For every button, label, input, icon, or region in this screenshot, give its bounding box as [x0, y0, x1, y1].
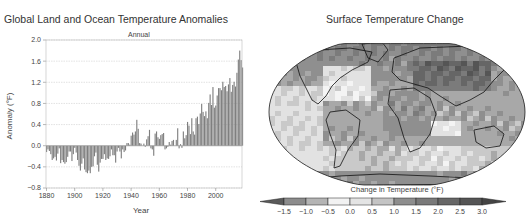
x-tick-label: 1960: [152, 192, 168, 199]
x-tick-label: 1880: [39, 192, 55, 199]
bar: [149, 130, 150, 146]
colorbar-tick-label: 1.0: [389, 208, 399, 215]
bar: [208, 103, 209, 146]
colorbar-tick-label: −1.5: [277, 208, 291, 215]
bar: [83, 146, 84, 159]
colorbar-segment: [416, 198, 438, 205]
bar: [184, 138, 185, 145]
bar: [63, 146, 64, 162]
bar: [241, 60, 242, 146]
bar: [60, 146, 61, 163]
continent-outline: [300, 174, 480, 186]
bar: [111, 146, 112, 150]
bar: [232, 85, 233, 146]
colorbar: −1.5−1.0−0.50.00.51.01.52.02.53.0: [260, 198, 506, 215]
bar: [47, 146, 48, 150]
bar: [198, 124, 199, 146]
bar: [74, 146, 75, 148]
bar: [173, 140, 174, 146]
bar: [59, 146, 60, 149]
bar: [81, 146, 82, 164]
colorbar-segment: [438, 198, 460, 205]
continent-outline: [392, 46, 506, 106]
bar: [193, 131, 194, 145]
bar: [238, 60, 239, 146]
bar: [133, 135, 134, 146]
bar: [212, 87, 213, 146]
colorbar-segment: [284, 198, 306, 205]
y-tick-label: 1.6: [31, 58, 41, 65]
bar: [155, 134, 156, 146]
bar: [171, 141, 172, 146]
bar: [50, 146, 51, 154]
bar: [49, 146, 50, 151]
bar: [77, 146, 78, 160]
bar: [52, 146, 53, 160]
bar: [97, 146, 98, 165]
bar: [100, 146, 101, 163]
bar: [125, 146, 126, 151]
bar: [122, 146, 123, 150]
bar: [109, 146, 110, 157]
bar: [187, 122, 188, 146]
bar: [73, 146, 74, 154]
y-tick-label: 0.0: [31, 142, 41, 149]
bar: [164, 146, 165, 150]
x-tick-label: 1940: [123, 192, 139, 199]
bar: [146, 139, 147, 145]
anomaly-bar-chart: 2.01.61.20.80.40.0−0.4−0.818801900192019…: [0, 0, 265, 224]
bar: [203, 112, 204, 146]
colorbar-segment: [328, 198, 350, 205]
bar: [135, 131, 136, 145]
colorbar-tick-label: −1.0: [299, 208, 313, 215]
bar: [128, 143, 129, 146]
bar: [160, 135, 161, 146]
bar: [166, 146, 167, 149]
bar: [124, 146, 125, 152]
colorbar-tick-label: 2.0: [433, 208, 443, 215]
bar: [108, 146, 109, 159]
bar: [205, 111, 206, 145]
bar: [57, 146, 58, 154]
x-tick-label: 1900: [67, 192, 83, 199]
bar: [195, 118, 196, 145]
bar: [139, 143, 140, 146]
continent-outline: [326, 110, 360, 168]
bar: [76, 146, 77, 153]
bar: [226, 91, 227, 145]
bar: [80, 146, 81, 171]
bar: [93, 146, 94, 167]
x-tick-label: 2000: [208, 192, 224, 199]
y-axis-label: Anomaly (°F): [5, 92, 14, 139]
continent-outline: [388, 88, 436, 152]
bar: [71, 146, 72, 161]
right-map-title: Surface Temperature Change: [326, 13, 464, 25]
bar: [188, 126, 189, 146]
bar: [152, 146, 153, 150]
bar: [191, 118, 192, 145]
y-tick-label: 2.0: [31, 36, 41, 43]
bar: [177, 128, 178, 145]
bar: [181, 146, 182, 148]
colorbar-segment: [372, 198, 394, 205]
bar: [53, 146, 54, 159]
y-tick-label: 1.2: [31, 79, 41, 86]
colorbar-tick-label: 0.5: [367, 208, 377, 215]
bar: [190, 134, 191, 146]
bar: [231, 92, 232, 146]
bar: [117, 146, 118, 152]
bar: [176, 140, 177, 146]
bar: [115, 146, 116, 163]
y-tick-label: 0.8: [31, 100, 41, 107]
bar: [229, 78, 230, 146]
continent-outline: [296, 48, 372, 104]
colorbar-tick-label: 2.5: [455, 208, 465, 215]
bar: [215, 106, 216, 146]
bar: [236, 73, 237, 146]
continent-outline: [362, 42, 388, 62]
bar: [112, 146, 113, 156]
bar: [153, 146, 154, 156]
colorbar-segment: [460, 198, 482, 205]
bar: [214, 108, 215, 146]
bar: [156, 131, 157, 145]
